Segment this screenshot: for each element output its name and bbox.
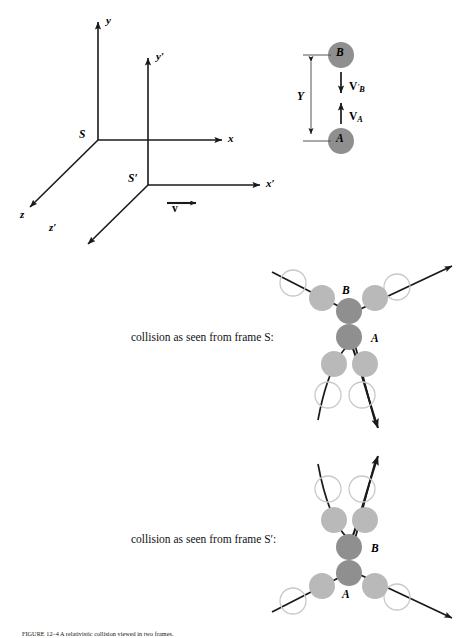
ball-B-ghost xyxy=(352,507,378,533)
axis-z-prime xyxy=(88,185,148,244)
axis-label-y-prime: y′ xyxy=(156,50,164,62)
axis-label-x-prime: x′ xyxy=(266,177,275,189)
setup-label-A: A xyxy=(336,132,344,144)
frame-Sprime-axes xyxy=(88,58,260,244)
panel-frame-Sprime xyxy=(272,456,452,618)
velocity-B-subscript: B xyxy=(359,85,365,94)
ball-B-ghost xyxy=(309,285,335,311)
ghost-circle xyxy=(349,476,375,502)
figure-caption: FIGURE 12–4 A relativistic collision vie… xyxy=(22,630,174,637)
ball-A xyxy=(336,324,362,350)
ball-B-ghost xyxy=(362,285,388,311)
velocity-label-v: v xyxy=(172,202,178,214)
ghost-circle xyxy=(349,382,375,408)
panel-frame-S xyxy=(272,266,452,428)
setup-diagram xyxy=(303,42,354,154)
ball-A-path xyxy=(272,571,452,618)
caption-frame-S: collision as seen from frame S: xyxy=(131,331,274,343)
ghost-circle xyxy=(315,382,341,408)
ball-A-ghost xyxy=(309,573,335,599)
ball-A xyxy=(336,560,362,586)
ball-A-ghost xyxy=(362,573,388,599)
ball-A-ghost xyxy=(321,351,347,377)
ball-A-ghost xyxy=(352,351,378,377)
origin-label-S: S xyxy=(79,128,85,140)
separation-label-Y: Y xyxy=(297,90,304,102)
velocity-A-label: VA xyxy=(349,110,363,124)
ball-B-ghost xyxy=(321,507,347,533)
panel-Sprime-label-B: B xyxy=(371,542,379,554)
origin-label-S-prime: S′ xyxy=(128,172,138,184)
axis-z xyxy=(30,140,98,207)
panel-S-label-A: A xyxy=(371,332,379,344)
velocity-B-label: V′B xyxy=(349,80,365,94)
ball-B-path xyxy=(272,266,452,313)
panel-Sprime-label-A: A xyxy=(342,588,350,600)
axis-label-x: x xyxy=(228,132,234,144)
frame-S-axes xyxy=(30,22,222,207)
setup-label-B: B xyxy=(336,46,344,58)
ball-B xyxy=(336,534,362,560)
axis-label-y: y xyxy=(106,14,111,26)
ball-B xyxy=(336,298,362,324)
ghost-circle xyxy=(315,476,341,502)
panel-S-label-B: B xyxy=(342,284,350,296)
velocity-A-subscript: A xyxy=(357,115,363,124)
caption-frame-S-prime: collision as seen from frame S′: xyxy=(131,533,276,545)
axis-label-z-prime: z′ xyxy=(49,221,56,233)
axis-label-z: z xyxy=(20,208,24,220)
